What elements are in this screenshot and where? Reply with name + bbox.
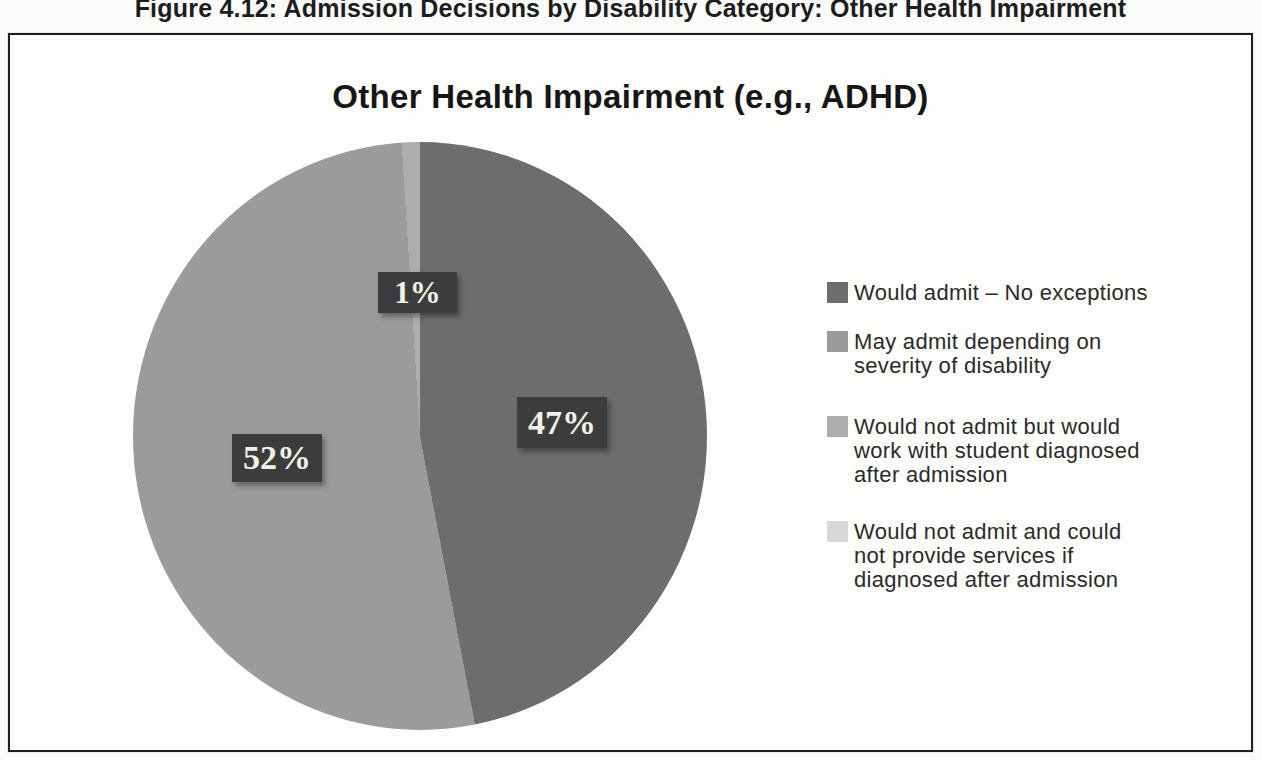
legend-label: May admit depending on severity of disab… [854,330,1174,378]
legend-label-line: severity of disability [854,354,1174,378]
legend-label-line: after admission [854,463,1174,487]
legend-item-may-admit: May admit depending on severity of disab… [827,330,1174,378]
legend-label-line: May admit depending on [854,330,1174,354]
legend-label-line: Would not admit and could [854,520,1174,544]
legend-label-line: Would admit – No exceptions [854,281,1174,305]
legend-label: Would not admit and could not provide se… [854,520,1174,592]
pie-value-label-52: 52% [232,434,322,482]
pie-value-label-47: 47% [517,397,607,448]
legend-label-line: Would not admit but would [854,415,1174,439]
chart-legend: Would admit – No exceptions May admit de… [827,0,1187,760]
legend-swatch-icon [827,521,848,542]
pie-chart [133,142,707,730]
pie-value-label-1: 1% [378,272,457,313]
legend-label-line: work with student diagnosed [854,439,1174,463]
legend-swatch-icon [827,416,848,437]
legend-swatch-icon [827,331,848,352]
legend-label: Would admit – No exceptions [854,281,1174,305]
legend-item-would-not-admit-no-services: Would not admit and could not provide se… [827,520,1174,592]
legend-label-line: not provide services if [854,544,1174,568]
legend-item-would-admit: Would admit – No exceptions [827,281,1174,305]
legend-swatch-icon [827,282,848,303]
legend-label-line: diagnosed after admission [854,568,1174,592]
legend-label: Would not admit but would work with stud… [854,415,1174,487]
legend-item-would-not-admit-but-work: Would not admit but would work with stud… [827,415,1174,487]
scanned-figure-page: { "figure": { "caption": "Figure 4.12: A… [0,0,1261,760]
